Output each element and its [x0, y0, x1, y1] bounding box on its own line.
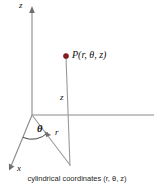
- theta-angle-arc: [23, 133, 48, 140]
- figure-caption: cylindrical coordinates (r, θ, z): [0, 174, 154, 183]
- theta-arc-arrow-icon: [45, 131, 52, 137]
- radius-label: r: [55, 128, 59, 137]
- point-p-label: P(r, θ, z): [72, 50, 106, 60]
- z-axis-label: z: [19, 1, 23, 10]
- coordinate-diagram-svg: [0, 0, 154, 183]
- x-axis-label: x: [17, 164, 21, 173]
- cylindrical-coordinates-figure: z x P(r, θ, z) z r θ cylindrical coordin…: [0, 0, 154, 183]
- x-axis-line: [12, 115, 33, 165]
- z-height-label: z: [60, 93, 64, 102]
- point-p-marker: [63, 53, 68, 58]
- height-drop-line: [66, 57, 70, 166]
- z-axis-arrow-icon: [29, 6, 35, 13]
- theta-angle-label: θ: [37, 124, 42, 135]
